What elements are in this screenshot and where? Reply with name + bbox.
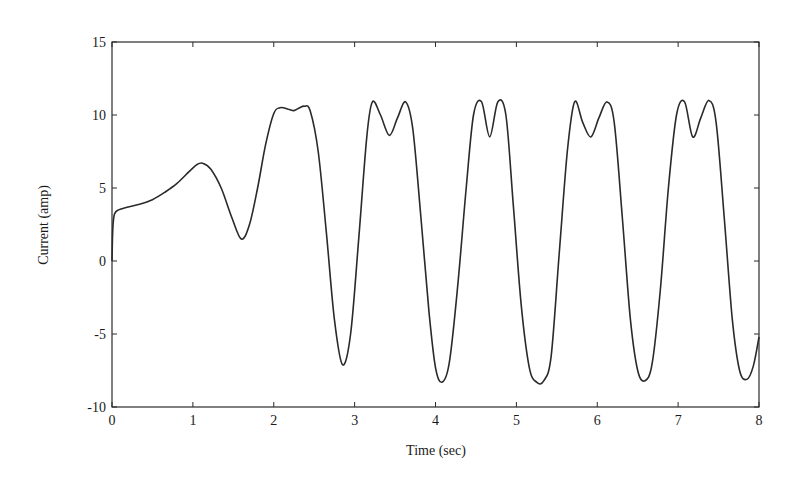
x-tick-label: 0 — [109, 413, 116, 428]
plot-frame — [112, 42, 759, 407]
x-tick-label: 7 — [675, 413, 682, 428]
y-axis-title: Current (amp) — [36, 185, 52, 265]
y-tick-label: 0 — [99, 254, 106, 269]
x-axis-title: Time (sec) — [406, 443, 466, 459]
y-tick-label: 5 — [99, 181, 106, 196]
x-tick-label: 3 — [351, 413, 358, 428]
x-tick-label: 1 — [189, 413, 196, 428]
y-tick-label: -5 — [94, 327, 106, 342]
y-tick-label: 15 — [92, 35, 106, 50]
x-tick-label: 8 — [756, 413, 763, 428]
y-tick-label: 10 — [92, 108, 106, 123]
line-chart: 012345678 -10-5051015 Time (sec) Current… — [0, 0, 799, 481]
current-series-line — [112, 100, 759, 384]
x-tick-label: 6 — [594, 413, 601, 428]
y-tick-label: -10 — [87, 400, 106, 415]
x-tick-label: 2 — [270, 413, 277, 428]
x-tick-label: 4 — [432, 413, 439, 428]
y-axis-ticks: -10-5051015 — [87, 35, 759, 415]
x-tick-label: 5 — [513, 413, 520, 428]
